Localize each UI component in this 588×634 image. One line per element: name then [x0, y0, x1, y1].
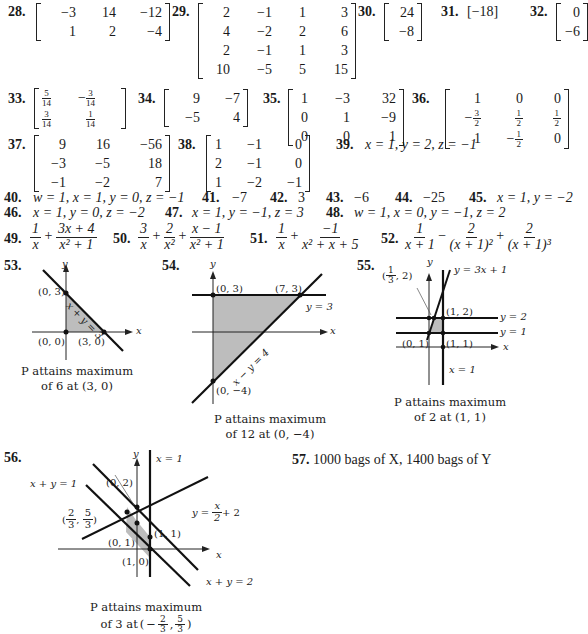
x-axis-label: x: [216, 549, 222, 560]
answer-57: 1000 bags of X, 1400 bags of Y: [313, 452, 491, 468]
matrix-cell: −4: [119, 22, 165, 41]
matrix-cell: 12: [526, 108, 564, 129]
problem-number-43: 43.: [326, 190, 344, 206]
matrix-cell: 1: [211, 135, 225, 154]
problem-number-37: 37.: [8, 137, 26, 153]
point-label: (7, 3): [275, 283, 302, 294]
answer-51: 1x + −1x² + x + 5: [276, 222, 358, 252]
x-axis-label: x: [503, 341, 509, 352]
answer-48: w = 1, x = 0, y = −1, z = 2: [354, 205, 505, 221]
line-label: x + y = 2: [206, 576, 253, 587]
matrix-cell: 9: [39, 135, 69, 154]
point-label: (0, 2): [106, 477, 133, 488]
problem-number-52: 52.: [381, 231, 399, 247]
problem-number-34: 34.: [138, 91, 156, 107]
caption-55: P attains maximum of 2 at (1, 1): [390, 395, 510, 425]
matrix-cell: −12: [484, 129, 526, 150]
matrix-cell: 12: [484, 108, 526, 129]
problem-number-39: 39.: [336, 137, 354, 153]
matrix-cell: 4: [203, 108, 243, 127]
matrix-cell: 6: [309, 22, 351, 41]
point-label: (1, 1): [154, 528, 181, 539]
line-label: x = 1: [156, 453, 183, 464]
matrix-cell: 1: [275, 41, 309, 60]
problem-number-45: 45.: [469, 190, 487, 206]
problem-number-35: 35.: [263, 91, 281, 107]
point-label-one-third-two: (13, 2): [382, 266, 412, 286]
matrix-cell: 4: [203, 22, 233, 41]
point-label: (0, 1): [108, 537, 135, 548]
matrix-cell: 3: [309, 3, 351, 22]
answer-47: x = 1, y = −1, z = 3: [192, 205, 304, 221]
answer-44: −25: [423, 190, 445, 206]
matrix-cell: 3: [309, 41, 351, 60]
answer-45: x = 1, y = −2: [497, 190, 573, 206]
matrix-cell: 2: [211, 154, 225, 173]
matrix-34: 9 −7 −5 4: [164, 89, 248, 127]
matrix-cell: 32: [353, 89, 399, 108]
problem-number-50: 50.: [113, 231, 131, 247]
problem-number-40: 40.: [4, 190, 22, 206]
problem-number-38: 38.: [178, 137, 196, 153]
point-label: (1, 0): [122, 556, 149, 567]
answer-40: w = 1, x = 1, y = 0, z = −1: [33, 190, 184, 206]
matrix-30: 24 −8: [384, 3, 422, 41]
answer-50: 3x + 2x² + x − 1x² + 1: [138, 222, 224, 252]
matrix-cell: −32: [450, 108, 484, 129]
answer-39: x = 1, y = 2, z = −1: [365, 137, 477, 153]
matrix-29: 2 −1 1 3 4 −2 2 6 2 −1 1 3 10 −5 5 15: [198, 3, 356, 79]
matrix-cell: 24: [389, 3, 417, 22]
problem-number-30: 30.: [358, 4, 376, 20]
problem-number-36: 36.: [412, 91, 430, 107]
matrix-cell: −3: [41, 3, 79, 22]
problem-number-28: 28.: [8, 4, 26, 20]
problem-number-49: 49.: [4, 231, 22, 247]
problem-number-48: 48.: [326, 205, 344, 221]
matrix-cell: 2: [79, 22, 119, 41]
matrix-cell: −5: [233, 60, 275, 79]
matrix-cell: 1: [311, 108, 353, 127]
matrix-cell: 14: [79, 3, 119, 22]
problem-number-32: 32.: [530, 4, 548, 20]
answer-43: −6: [354, 190, 369, 206]
matrix-cell: −2: [233, 22, 275, 41]
matrix-cell: −9: [353, 108, 399, 127]
problem-number-41: 41.: [202, 190, 220, 206]
matrix-cell: 15: [309, 60, 351, 79]
matrix-cell: 1: [275, 3, 309, 22]
matrix-cell: 0: [484, 89, 526, 108]
matrix-cell: −1: [225, 135, 265, 154]
matrix-cell: 2: [275, 22, 309, 41]
problem-number-47: 47.: [165, 205, 183, 221]
matrix-cell: −314: [75, 88, 121, 109]
matrix-cell: −3: [311, 89, 353, 108]
problem-number-29: 29.: [172, 4, 190, 20]
line-label: y = 1: [500, 326, 527, 337]
matrix-cell: −5: [69, 154, 113, 173]
point-label: (0, 1): [402, 338, 429, 349]
matrix-cell: −12: [119, 3, 165, 22]
matrix-cell: −6: [561, 22, 583, 41]
matrix-cell: 0: [265, 135, 305, 154]
matrix-cell: 114: [75, 109, 121, 130]
matrix-cell: 10: [203, 60, 233, 79]
matrix-cell: −8: [389, 22, 417, 41]
answer-46: x = 1, y = 0, z = −2: [33, 205, 145, 221]
y-axis-label: y: [62, 258, 68, 269]
matrix-cell: 0: [265, 154, 305, 173]
matrix-cell: −5: [169, 108, 203, 127]
matrix-cell: 0: [526, 129, 564, 150]
matrix-cell: 1: [41, 22, 79, 41]
answer-42: 3: [298, 190, 305, 206]
answer-49: 1x + 3x + 4x² + 1: [30, 222, 97, 252]
problem-number-51: 51.: [250, 231, 268, 247]
matrix-38: 1 −1 0 2 −1 0 1 −2 −1: [206, 135, 310, 192]
matrix-cell: 0: [526, 89, 564, 108]
matrix-cell: −3: [39, 154, 69, 173]
matrix-cell: 514: [39, 88, 75, 109]
matrix-cell: 0: [561, 3, 583, 22]
line-label: y = 3: [306, 301, 333, 312]
matrix-cell: 0: [293, 108, 311, 127]
answer-31: [−18]: [467, 4, 498, 20]
point-label-two-thirds-five-thirds: (23, 53): [62, 508, 97, 530]
